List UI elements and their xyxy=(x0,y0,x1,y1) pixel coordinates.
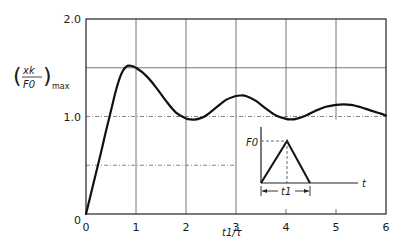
x-tick-label: 5 xyxy=(333,221,340,234)
y-label-subscript: max xyxy=(52,82,70,91)
x-tick-label: 6 xyxy=(383,221,390,234)
y-label-numerator: xk xyxy=(22,65,36,76)
y-axis-label: ( xk F0 ) max xyxy=(13,63,70,91)
inset-pulse-diagram: F0 t t1 xyxy=(246,127,367,197)
x-tick-label: 2 xyxy=(183,221,190,234)
x-tick-label: 4 xyxy=(283,221,290,234)
inset-peak-label: F0 xyxy=(246,137,258,148)
x-axis-label: t1/τ xyxy=(222,227,243,238)
inset-dim-arrow-left xyxy=(262,189,267,193)
y-tick-labels: 01.02.0 xyxy=(64,13,82,227)
inset-dim-arrow-right xyxy=(304,189,309,193)
y-tick-label: 0 xyxy=(74,214,81,227)
inset-time-label: t xyxy=(362,178,367,189)
y-label-right-paren: ) xyxy=(43,63,52,88)
inset-triangle-pulse xyxy=(261,141,310,183)
chart: 0123456 01.02.0 ( xk F0 ) max t1/τ F0 t … xyxy=(0,0,399,252)
inset-duration-label: t1 xyxy=(281,186,291,197)
y-label-left-paren: ( xyxy=(13,63,22,88)
x-tick-label: 0 xyxy=(83,221,90,234)
grid-layer xyxy=(86,19,386,214)
y-label-denominator: F0 xyxy=(23,79,35,90)
x-tick-label: 1 xyxy=(133,221,140,234)
y-tick-label: 2.0 xyxy=(64,13,82,26)
y-tick-label: 1.0 xyxy=(64,111,82,124)
